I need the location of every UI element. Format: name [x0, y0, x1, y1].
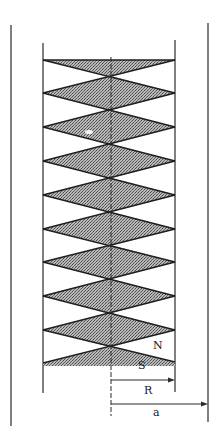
arrowhead-icon: [168, 378, 175, 383]
domain-diamond: [43, 279, 175, 313]
radius-R-arrow: [111, 378, 175, 383]
domain-diagram: N S R a: [0, 0, 224, 439]
label-a: a: [153, 406, 160, 419]
domain-diamond: [43, 76, 175, 110]
domain-top-triangle: [43, 60, 175, 76]
domain-diamond: [43, 212, 175, 245]
label-north: N: [153, 339, 163, 352]
arrowhead-icon: [201, 402, 208, 407]
scan-blemish: [85, 130, 93, 134]
domain-diamond: [43, 245, 175, 279]
domain-diamond: [43, 144, 175, 178]
label-south: S: [138, 359, 146, 372]
domain-diamond: [43, 110, 175, 144]
domain-diamond: [43, 178, 175, 212]
shaded-domains: [43, 60, 175, 366]
label-R: R: [144, 384, 153, 397]
